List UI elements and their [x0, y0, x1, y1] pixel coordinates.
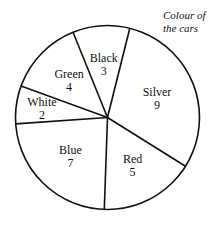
slice-value-black: 3	[101, 64, 107, 78]
slice-label-red: Red	[123, 152, 142, 166]
slice-value-silver: 9	[154, 98, 160, 112]
slice-label-white: White	[27, 95, 56, 109]
slice-value-red: 5	[130, 165, 136, 179]
slice-label-silver: Silver	[143, 85, 172, 99]
slice-value-white: 2	[39, 108, 45, 122]
slice-label-black: Black	[90, 51, 118, 65]
slice-value-green: 4	[66, 80, 72, 94]
slice-label-green: Green	[54, 67, 83, 81]
slice-label-blue: Blue	[59, 143, 82, 157]
slice-value-blue: 7	[67, 156, 73, 170]
pie-chart: Silver9Red5Blue7White2Green4Black3	[0, 0, 215, 226]
